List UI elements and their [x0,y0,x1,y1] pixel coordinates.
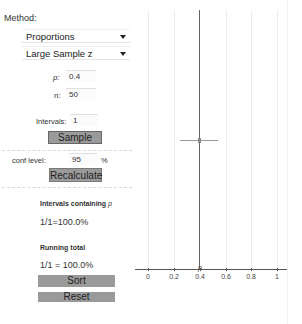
p-symbol: p [108,200,112,207]
confidence-interval-chart: 0 0.2 0.4 0.6 0.8 1 p [135,0,302,324]
containing-label-text: Intervals containing [40,200,106,207]
method-label: Method: [4,13,37,23]
recalculate-button[interactable]: Recalculate [49,168,102,182]
parameter-select-value: Proportions [26,31,75,42]
containing-label: Intervals containing p [40,200,112,207]
x-tick-label: 0.6 [221,273,231,280]
n-label: n: [54,91,61,100]
right-boundary [287,0,288,324]
sample-button[interactable]: Sample [48,131,102,144]
method-select[interactable]: Large Sample z [22,46,130,60]
reset-button[interactable]: Reset [38,292,115,302]
x-tick-label: 0 [146,273,150,280]
percent-label: % [101,156,108,165]
intervals-input[interactable]: 1 [70,114,98,126]
x-tick [277,268,278,271]
gridline [226,10,227,269]
gridline [251,10,252,269]
conf-level-input[interactable]: 95 [69,153,97,165]
chevron-down-icon [120,52,126,56]
x-axis [135,269,287,270]
x-tick-label: 0.4 [195,273,205,280]
gridline [277,10,278,269]
divider [2,150,132,151]
x-tick-label: 0.8 [246,273,256,280]
n-input[interactable]: 50 [66,88,96,100]
conf-level-label: conf level: [12,156,46,165]
control-panel: Method: Proportions Large Sample z p: 0.… [0,0,135,324]
p-input[interactable]: 0.4 [66,70,96,82]
intervals-label: Intervals: [36,117,66,126]
x-tick [226,268,227,271]
point-estimate [198,138,201,143]
running-total-value: 1/1 = 100.0% [40,260,93,270]
containing-value: 1/1=100.0% [40,217,88,227]
x-tick-label: 1 [275,273,279,280]
sort-button[interactable]: Sort [38,275,115,287]
p-label: p: [53,73,60,82]
x-tick [148,268,149,271]
gridline [174,10,175,269]
x-tick-label: 0.2 [169,273,179,280]
gridline [148,10,149,269]
parameter-select[interactable]: Proportions [22,29,130,43]
x-tick [174,268,175,271]
running-total-label: Running total [40,244,85,251]
x-tick [251,268,252,271]
chevron-down-icon [120,35,126,39]
true-p-marker: p [198,264,202,271]
method-select-value: Large Sample z [26,48,93,59]
divider [2,187,132,188]
